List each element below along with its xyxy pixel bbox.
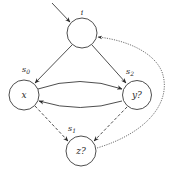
state-label-s2-sub: 2 — [129, 70, 134, 77]
edge-start-to-i — [52, 3, 70, 22]
node-i — [67, 18, 97, 48]
node-y: y? — [123, 81, 152, 110]
state-diagram: x y? z? i s0 s2 s1 — [0, 0, 173, 174]
node-x: x — [9, 80, 39, 110]
node-z: z? — [66, 136, 96, 166]
edge-i-to-y — [92, 45, 126, 83]
node-y-label: y? — [131, 90, 142, 100]
state-label-s2: s2 — [126, 67, 134, 77]
edge-i-to-x — [35, 45, 72, 83]
state-label-s1-sub: 1 — [72, 127, 76, 134]
edges — [35, 3, 164, 148]
node-z-label: z? — [75, 146, 86, 156]
edge-x-to-z — [35, 106, 68, 141]
state-label-s0: s0 — [22, 65, 30, 75]
state-label-s0-sub: 0 — [26, 68, 30, 75]
edge-x-to-y — [38, 82, 122, 90]
edge-y-to-z — [94, 107, 127, 141]
state-label-i: i — [81, 8, 84, 17]
node-i-circle — [67, 18, 97, 48]
state-label-s1: s1 — [68, 124, 76, 134]
node-x-label: x — [21, 90, 26, 100]
edge-y-to-x — [39, 101, 122, 108]
